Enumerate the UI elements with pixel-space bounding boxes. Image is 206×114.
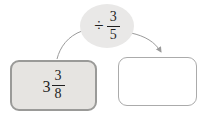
answer-box[interactable] [118, 57, 197, 106]
dividend-mixed-number: 3 3 8 [43, 69, 65, 101]
operation-fraction-numerator: 3 [107, 10, 120, 27]
division-operator: ÷ [94, 17, 103, 36]
operation-bubble: ÷ 3 5 [80, 4, 134, 48]
dividend-box: 3 3 8 [10, 60, 97, 111]
connector-left-line [57, 31, 82, 59]
dividend-fraction: 3 8 [52, 69, 65, 101]
dividend-fraction-numerator: 3 [52, 69, 65, 86]
dividend-fraction-denominator: 8 [52, 86, 65, 102]
dividend-whole-number: 3 [43, 76, 51, 95]
arrow-right-icon [131, 33, 161, 52]
operation-fraction: 3 5 [107, 10, 120, 42]
operation-fraction-denominator: 5 [107, 27, 120, 43]
division-flow-diagram: ÷ 3 5 3 3 8 [0, 0, 206, 114]
